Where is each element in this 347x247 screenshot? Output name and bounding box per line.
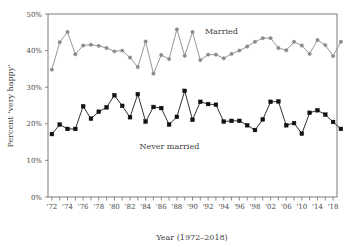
data-point xyxy=(199,58,202,61)
data-point xyxy=(292,40,295,43)
data-point xyxy=(136,92,140,96)
data-point xyxy=(97,110,101,114)
data-point xyxy=(144,120,148,124)
y-tick-label: 0% xyxy=(31,194,42,202)
data-point xyxy=(66,30,69,33)
data-point xyxy=(292,121,296,125)
data-point xyxy=(160,53,163,56)
data-point xyxy=(261,36,264,39)
data-point xyxy=(308,111,312,115)
data-point xyxy=(152,105,156,109)
data-series-group xyxy=(50,28,343,136)
data-point xyxy=(81,104,85,108)
data-point xyxy=(167,123,171,127)
data-point xyxy=(167,57,170,60)
data-point xyxy=(245,123,249,127)
data-point xyxy=(316,108,320,112)
data-point xyxy=(183,89,187,93)
data-point xyxy=(73,127,77,131)
data-point xyxy=(339,127,343,131)
data-point xyxy=(206,102,210,106)
data-point xyxy=(89,43,92,46)
x-tick-label: '74 xyxy=(62,203,73,211)
series-label-never-married: Never married xyxy=(140,142,200,151)
data-point xyxy=(74,53,77,56)
data-point xyxy=(285,49,288,52)
x-tick-label: '76 xyxy=(78,203,89,211)
y-axis-title: Percent 'very happy' xyxy=(6,65,15,148)
data-point xyxy=(222,120,226,124)
data-point xyxy=(81,44,84,47)
x-tick-label: '84 xyxy=(140,203,151,211)
x-tick-label: '98 xyxy=(250,203,261,211)
data-point xyxy=(277,100,281,104)
x-tick-label: '14 xyxy=(312,203,323,211)
data-point xyxy=(269,36,272,39)
data-point xyxy=(206,53,209,56)
data-point xyxy=(324,43,327,46)
data-point xyxy=(214,103,218,107)
y-tick-label: 20% xyxy=(26,120,42,128)
data-point xyxy=(300,44,303,47)
x-tick-label: '72 xyxy=(46,203,57,211)
data-point xyxy=(253,40,256,43)
data-point xyxy=(191,118,195,122)
data-point xyxy=(112,93,116,97)
data-point xyxy=(128,115,132,119)
data-point xyxy=(300,132,304,136)
x-tick-label: '06 xyxy=(281,203,292,211)
x-tick-label: '94 xyxy=(218,203,229,211)
data-point xyxy=(277,46,280,49)
data-point xyxy=(66,127,70,131)
x-tick-label: '18 xyxy=(328,203,339,211)
data-point xyxy=(245,45,248,48)
data-point xyxy=(58,123,62,127)
chart-figure: 0%10%20%30%40%50% '72'74'76'78'80'82'84'… xyxy=(0,0,347,247)
data-point xyxy=(198,100,202,104)
x-axis: '72'74'76'78'80'82'84'86'88'90'92'94'96'… xyxy=(46,197,338,211)
data-point xyxy=(316,38,319,41)
x-tick-label: '80 xyxy=(109,203,120,211)
data-point xyxy=(269,100,273,104)
data-point xyxy=(323,113,327,117)
y-tick-label: 10% xyxy=(26,157,42,165)
data-point xyxy=(308,52,311,55)
data-point xyxy=(253,128,257,132)
data-point xyxy=(230,52,233,55)
x-tick-label: '02 xyxy=(265,203,276,211)
data-point xyxy=(214,53,217,56)
y-axis: 0%10%20%30%40%50% xyxy=(26,11,48,202)
y-tick-label: 40% xyxy=(26,47,42,55)
y-tick-label: 50% xyxy=(26,11,42,19)
data-point xyxy=(128,56,131,59)
y-tick-label: 30% xyxy=(26,84,42,92)
series-married xyxy=(50,28,342,76)
x-axis-title: Year (1972–2018) xyxy=(155,233,227,242)
data-point xyxy=(144,40,147,43)
data-point xyxy=(175,28,178,31)
data-point xyxy=(284,123,288,127)
data-point xyxy=(136,65,139,68)
line-chart: 0%10%20%30%40%50% '72'74'76'78'80'82'84'… xyxy=(0,0,347,247)
data-point xyxy=(58,40,61,43)
data-point xyxy=(159,106,163,110)
data-point xyxy=(331,54,334,57)
data-point xyxy=(97,44,100,47)
x-tick-label: '90 xyxy=(187,203,198,211)
data-point xyxy=(222,57,225,60)
x-tick-label: '96 xyxy=(234,203,245,211)
data-point xyxy=(113,50,116,53)
x-tick-label: '10 xyxy=(296,203,307,211)
data-point xyxy=(261,118,265,122)
x-tick-label: '88 xyxy=(171,203,182,211)
data-point xyxy=(183,54,186,57)
data-point xyxy=(50,68,53,71)
data-point xyxy=(339,40,342,43)
x-tick-label: '86 xyxy=(156,203,167,211)
data-point xyxy=(152,72,155,75)
data-point xyxy=(238,49,241,52)
x-tick-label: '78 xyxy=(93,203,104,211)
data-point xyxy=(105,46,108,49)
series-label-married: Married xyxy=(205,27,238,36)
data-point xyxy=(331,120,335,124)
